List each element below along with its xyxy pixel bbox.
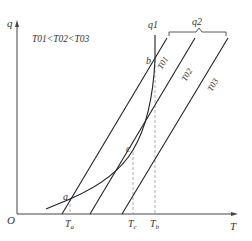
q2-label: q2 <box>192 16 202 27</box>
x-axis-label: T <box>230 220 237 232</box>
line-t03 <box>122 38 228 214</box>
q1-label: q1 <box>148 19 158 30</box>
dashed-guides <box>70 60 155 214</box>
tick-tb: Tb <box>150 218 160 231</box>
q2-brace <box>169 28 226 36</box>
line-t02 <box>90 38 195 214</box>
point-c-label: c <box>126 143 131 154</box>
t01-label: T01 <box>155 55 170 71</box>
t02-label: T02 <box>179 66 195 83</box>
condition-label: T01<T02<T03 <box>32 34 89 44</box>
y-axis-label: q <box>7 17 13 29</box>
temperature-lines <box>62 38 228 214</box>
origin-label: O <box>7 214 15 226</box>
tick-ta: Ta <box>65 218 75 231</box>
diagram-canvas: q T O T01<T02<T03 q1 q2 T01 T02 T03 a b … <box>0 0 252 241</box>
line-t01 <box>62 38 167 214</box>
q1-curve <box>46 35 155 209</box>
point-b-label: b <box>146 55 151 66</box>
tick-tc: Tc <box>128 218 138 231</box>
point-a-label: a <box>63 191 68 202</box>
axes <box>15 20 238 216</box>
t03-label: T03 <box>205 77 220 93</box>
